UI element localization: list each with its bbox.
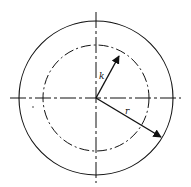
- vector-r-arrow: [96, 98, 161, 137]
- stray-dot: [32, 106, 34, 108]
- vector-r-label: r: [125, 106, 130, 116]
- diagram: k r: [0, 0, 191, 187]
- vector-k-label: k: [99, 71, 104, 81]
